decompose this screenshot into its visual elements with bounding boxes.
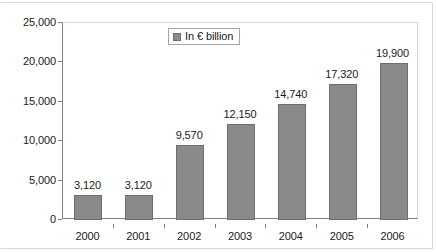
bar-2000 xyxy=(74,195,102,220)
x-axis: 2000200120022003200420052006 xyxy=(62,224,419,246)
y-tick-mark xyxy=(58,22,62,23)
chart-legend: In € billion xyxy=(168,28,240,45)
x-tick-mark xyxy=(215,224,216,228)
x-tick-mark xyxy=(265,224,266,228)
bars-layer xyxy=(63,23,419,220)
bar-value-label-2005: 17,320 xyxy=(325,68,358,80)
bar-value-label-2002: 9,570 xyxy=(176,129,203,141)
bar-2004 xyxy=(278,104,306,220)
x-tick-label-2005: 2005 xyxy=(330,230,354,242)
bar-value-label-2000: 3,120 xyxy=(74,179,101,191)
legend-label-in-eur-billion: In € billion xyxy=(185,31,233,42)
y-tick-label: 25,000 xyxy=(0,16,56,28)
bar-2001 xyxy=(125,195,153,220)
bar-2002 xyxy=(176,145,204,220)
bar-value-label-2003: 12,150 xyxy=(223,108,256,120)
y-tick-mark xyxy=(58,140,62,141)
x-tick-mark xyxy=(113,224,114,228)
x-tick-label-2006: 2006 xyxy=(381,230,405,242)
x-tick-label-2003: 2003 xyxy=(228,230,252,242)
y-tick-label: 20,000 xyxy=(0,55,56,67)
bar-chart: 05,00010,00015,00020,00025,000 3,1203,12… xyxy=(0,0,436,252)
y-axis: 05,00010,00015,00020,00025,000 xyxy=(0,0,56,252)
y-tick-label: 0 xyxy=(0,213,56,225)
x-tick-label-2002: 2002 xyxy=(177,230,201,242)
y-tick-mark xyxy=(58,101,62,102)
x-tick-label-2001: 2001 xyxy=(126,230,150,242)
legend-swatch-in-eur-billion xyxy=(173,33,181,41)
y-tick-mark xyxy=(58,219,62,220)
bar-2005 xyxy=(329,84,357,220)
y-tick-label: 10,000 xyxy=(0,134,56,146)
bar-value-label-2004: 14,740 xyxy=(274,88,307,100)
bar-2006 xyxy=(380,63,408,220)
x-tick-mark xyxy=(316,224,317,228)
x-tick-label-2000: 2000 xyxy=(75,230,99,242)
y-tick-label: 5,000 xyxy=(0,174,56,186)
x-tick-mark xyxy=(164,224,165,228)
bar-2003 xyxy=(227,124,255,220)
plot-area xyxy=(62,22,418,219)
y-tick-mark xyxy=(58,61,62,62)
x-tick-mark xyxy=(367,224,368,228)
y-tick-label: 15,000 xyxy=(0,95,56,107)
x-tick-label-2004: 2004 xyxy=(279,230,303,242)
y-tick-mark xyxy=(58,180,62,181)
bar-value-label-2001: 3,120 xyxy=(125,179,152,191)
bar-value-label-2006: 19,900 xyxy=(376,47,409,59)
